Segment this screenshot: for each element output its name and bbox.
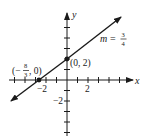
x-intercept-label-open: (− bbox=[12, 66, 21, 77]
slope-annotation: m = 3 4 bbox=[100, 31, 127, 47]
x-intercept-label-numerator: 8 bbox=[24, 62, 27, 69]
x-tick-label-neg2: −2 bbox=[37, 84, 47, 94]
slope-denominator: 4 bbox=[122, 40, 126, 47]
linear-function-graph: x y −2 2 −2 (0, 2) (− 8 3 , 0) m = 3 4 bbox=[0, 0, 149, 137]
y-intercept-label: (0, 2) bbox=[70, 58, 91, 69]
y-tick-label-neg2: −2 bbox=[53, 96, 63, 106]
x-intercept-label-denominator: 3 bbox=[24, 71, 27, 78]
x-axis bbox=[9, 77, 133, 83]
y-axis bbox=[64, 13, 70, 136]
x-tick-label-2: 2 bbox=[85, 84, 90, 94]
x-intercept-point bbox=[37, 78, 42, 83]
chart-canvas: x y −2 2 −2 (0, 2) (− 8 3 , 0) m = 3 4 bbox=[0, 0, 149, 137]
slope-symbol: m bbox=[100, 33, 107, 44]
y-axis-label: y bbox=[71, 9, 77, 20]
x-axis-label: x bbox=[134, 75, 140, 86]
x-intercept-label: (− 8 3 , 0) bbox=[12, 62, 42, 78]
slope-equals: = bbox=[110, 33, 116, 44]
y-intercept-point bbox=[65, 57, 70, 62]
slope-numerator: 3 bbox=[122, 31, 125, 38]
x-intercept-label-close: , 0) bbox=[29, 66, 42, 77]
